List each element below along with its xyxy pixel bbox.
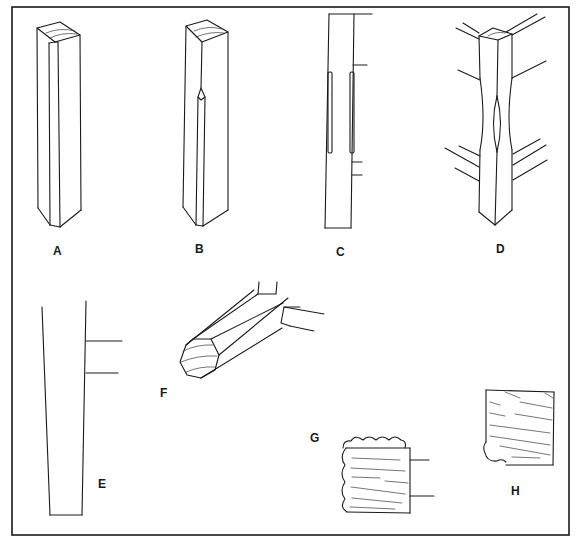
- figure-c-elevation: [325, 14, 372, 228]
- figure-g-section: [342, 437, 434, 513]
- label-d: D: [496, 242, 505, 256]
- label-b: B: [195, 242, 204, 256]
- label-g: G: [310, 431, 319, 445]
- label-c: C: [336, 245, 345, 259]
- label-f: F: [160, 386, 167, 400]
- diagram-canvas: A B C D E F G H: [0, 0, 581, 542]
- figure-b-post: [183, 20, 228, 226]
- label-a: A: [53, 244, 62, 258]
- figure-e-leg: [42, 301, 122, 515]
- label-h: H: [511, 484, 520, 498]
- figure-h-section: [484, 390, 554, 465]
- figure-f-leg-end: [180, 282, 324, 378]
- illustration-svg: [0, 0, 581, 542]
- figure-d-post: [445, 14, 547, 225]
- figure-a-post: [37, 22, 81, 227]
- label-e: E: [98, 477, 106, 491]
